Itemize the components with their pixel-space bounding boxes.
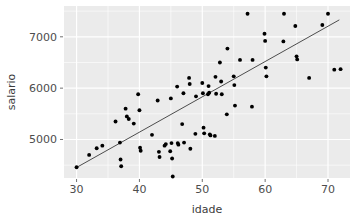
scatter-point [219,80,223,84]
scatter-point [263,39,267,43]
scatter-point [119,158,123,162]
scatter-point [214,92,218,96]
scatter-point [251,58,255,62]
scatter-point [157,150,161,154]
scatter-point [180,122,184,126]
scatter-point [264,66,268,70]
scatter-point [193,132,197,136]
scatter-point [209,133,213,137]
x-axis-tick-label: 60 [258,183,272,196]
scatter-point [188,147,192,151]
scatter-point [176,143,180,147]
y-axis-title: salario [5,73,18,110]
scatter-point [281,39,285,43]
scatter-point [282,12,286,16]
scatter-point [214,75,218,79]
x-axis-tick-label: 70 [321,183,335,196]
scatter-plot-figure: 3040506070500060007000idadesalario [0,0,357,223]
y-axis-tick-label: 7000 [29,31,57,44]
scatter-point [225,112,229,116]
scatter-point [150,133,154,137]
scatter-point [171,175,175,179]
scatter-point [213,134,217,138]
scatter-point [175,85,179,89]
scatter-point [207,84,211,88]
scatter-point [188,82,192,86]
x-axis-tick-label: 40 [132,183,146,196]
scatter-point [201,91,205,95]
scatter-point [169,96,173,100]
scatter-point [220,92,224,96]
scatter-point [332,68,336,72]
scatter-point [170,157,174,161]
scatter-point [187,76,191,80]
scatter-point [158,155,162,159]
y-axis-tick-label: 5000 [29,133,57,146]
scatter-point [132,122,136,126]
scatter-point [202,131,206,135]
scatter-point [326,12,330,16]
plot-panel-background [64,6,350,178]
scatter-point [264,74,268,78]
scatter-point [75,165,79,169]
scatter-point [164,142,168,146]
scatter-point [339,67,343,71]
scatter-point [218,61,222,65]
scatter-point [293,24,297,28]
scatter-point [232,74,236,78]
x-axis-title: idade [192,203,223,216]
scatter-point [139,149,143,153]
scatter-point [232,83,236,87]
scatter-point [202,126,206,130]
y-axis-tick-label: 6000 [29,82,57,95]
scatter-point [295,57,299,61]
scatter-point [246,12,250,16]
x-axis-tick-label: 30 [70,183,84,196]
scatter-point [233,104,237,108]
scatter-point [307,76,311,80]
scatter-point [156,99,160,103]
scatter-point [181,91,185,95]
scatter-point [170,141,174,145]
scatter-point [225,47,229,51]
scatter-point [127,117,131,121]
scatter-point [114,120,118,124]
scatter-point [207,91,211,95]
plot-canvas: 3040506070500060007000idadesalario [0,0,357,223]
scatter-point [124,107,128,111]
scatter-point [118,141,122,145]
scatter-point [136,92,140,96]
scatter-point [95,146,99,150]
scatter-point [168,149,172,153]
scatter-point [137,108,141,112]
x-axis-tick-label: 50 [195,183,209,196]
scatter-point [100,144,104,148]
scatter-point [238,58,242,62]
scatter-point [182,141,186,145]
scatter-point [250,105,254,109]
scatter-point [194,94,198,98]
scatter-point [320,23,324,27]
scatter-point [119,164,123,168]
scatter-point [87,153,91,157]
scatter-point [200,81,204,85]
scatter-point [263,32,267,36]
